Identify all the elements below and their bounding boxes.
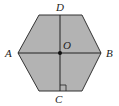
label-D: D <box>55 1 64 13</box>
label-C: C <box>55 93 63 105</box>
label-A: A <box>4 47 12 59</box>
label-O: O <box>63 39 71 51</box>
hexagon-diagram: D A B O C <box>0 0 119 106</box>
label-B: B <box>106 47 113 59</box>
center-point-O <box>58 51 62 55</box>
